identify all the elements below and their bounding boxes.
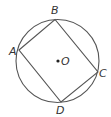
inscribed-quadrilateral-diagram: B A C D O	[0, 0, 111, 117]
label-a: A	[8, 45, 17, 58]
label-o: O	[61, 55, 70, 68]
label-c: C	[99, 67, 107, 80]
center-point-o	[56, 59, 59, 62]
diagram-canvas: B A C D O	[0, 0, 111, 117]
label-b: B	[51, 4, 59, 17]
label-d: D	[56, 104, 64, 117]
